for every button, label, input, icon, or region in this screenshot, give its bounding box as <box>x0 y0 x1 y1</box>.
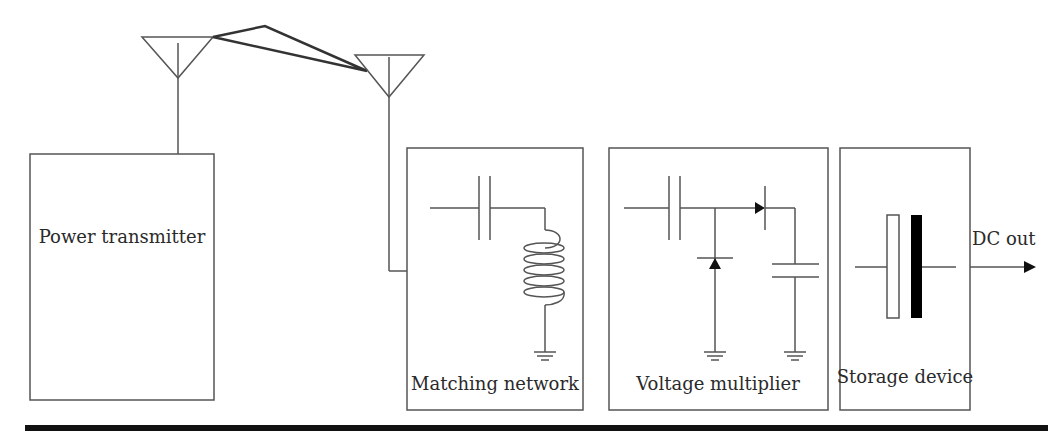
voltage-multiplier-label: Voltage multiplier <box>635 373 800 394</box>
matching-network-label: Matching network <box>411 373 580 394</box>
arrow-right-icon <box>1024 261 1036 273</box>
wireless-beam-icon <box>213 26 367 71</box>
dc-output: DC out <box>970 228 1036 273</box>
voltage-multiplier-block: Voltage multiplier <box>609 148 828 410</box>
storage-device-block: Storage device <box>837 148 973 410</box>
dc-out-label: DC out <box>972 228 1036 249</box>
power-transmitter-label: Power transmitter <box>39 226 206 247</box>
matching-network-block: Matching network <box>407 148 583 410</box>
bottom-rule <box>25 425 1048 431</box>
diagram-canvas: Power transmitter <box>0 0 1064 441</box>
storage-device-label: Storage device <box>837 366 973 387</box>
transmit-antenna-icon <box>142 37 213 154</box>
power-transmitter-block: Power transmitter <box>30 154 214 400</box>
